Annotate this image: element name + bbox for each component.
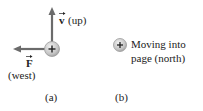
velocity-direction: (up) <box>68 14 86 27</box>
diagram: v (up) F (west) (a) Moving into page (no… <box>0 0 203 111</box>
force-direction: (west) <box>8 69 36 82</box>
velocity-symbol: v <box>59 14 65 27</box>
caption-b: (b) <box>115 91 128 104</box>
velocity-arrow <box>49 7 56 42</box>
positive-charge-b <box>114 39 127 52</box>
caption-a: (a) <box>45 91 57 104</box>
positive-charge-a <box>45 42 60 57</box>
motion-text-line2: page (north) <box>131 52 185 65</box>
force-arrow <box>13 46 45 53</box>
motion-text-line1: Moving into <box>131 38 186 51</box>
